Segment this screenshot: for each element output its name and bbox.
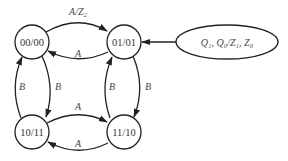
state-01-01: 01/01 [107, 25, 141, 59]
edge-label-11-to-10: A [74, 138, 82, 149]
edge-label-01-to-00: A [74, 48, 82, 59]
state-00-00: 00/00 [15, 25, 49, 59]
edge-10-to-11 [47, 115, 107, 123]
state-10-11: 10/11 [15, 115, 49, 149]
edge-label-00-to-10: B [55, 81, 61, 92]
edge-label-10-to-11: A [74, 101, 82, 112]
legend-label: Q₁, Q₀/Z₁, Z₀ [201, 37, 254, 48]
edge-label-10-to-00: B [19, 81, 25, 92]
legend-ellipse: Q₁, Q₀/Z₁, Z₀ [176, 25, 278, 59]
state-11-10: 11/10 [107, 115, 141, 149]
state-diagram: A/Z₂ A B B B B A A 00/00 01/01 10/11 11/… [0, 0, 288, 161]
state-label: 00/00 [20, 37, 44, 48]
edge-01-to-11 [133, 56, 140, 117]
state-label: 10/11 [20, 127, 44, 138]
edge-label-11-to-01: B [109, 81, 115, 92]
edge-00-to-10 [42, 56, 50, 117]
edge-00-to-01 [46, 23, 107, 32]
edge-label-00-to-01: A/Z₂ [68, 6, 87, 17]
state-label: 11/10 [112, 127, 136, 138]
edge-label-01-to-11: B [145, 81, 151, 92]
state-label: 01/01 [112, 37, 136, 48]
